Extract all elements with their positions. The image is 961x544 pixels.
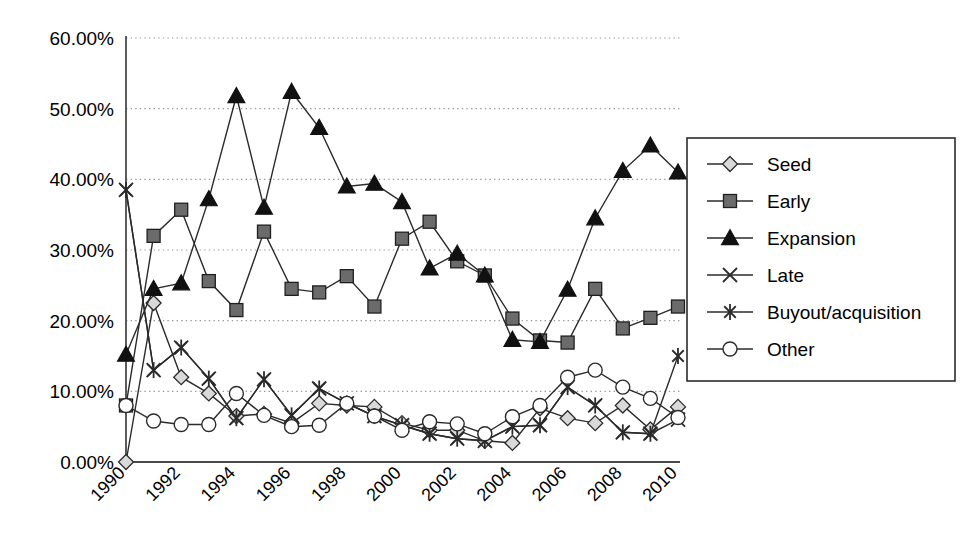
data-point-marker-asterisk xyxy=(313,381,325,397)
legend-label: Late xyxy=(767,265,804,286)
x-tick-label: 2002 xyxy=(418,463,460,505)
y-tick-label: 20.00% xyxy=(50,311,115,332)
data-point-marker-circle xyxy=(229,386,243,400)
y-tick-label: 10.00% xyxy=(50,381,115,402)
data-point-marker-asterisk xyxy=(120,182,132,198)
series-expansion xyxy=(118,83,687,361)
legend-label: Buyout/acquisition xyxy=(767,302,921,323)
y-tick-label: 60.00% xyxy=(50,28,115,49)
data-point-marker-triangle xyxy=(504,331,521,346)
series-seed xyxy=(119,296,686,470)
x-tick-label: 2010 xyxy=(638,463,680,505)
data-point-marker-square xyxy=(230,304,243,317)
data-point-marker-square xyxy=(175,203,188,216)
data-point-marker-square xyxy=(340,270,353,283)
data-point-marker-square xyxy=(202,275,215,288)
legend-label: Other xyxy=(767,339,815,360)
data-point-marker-square xyxy=(724,195,737,208)
x-tick-label: 2000 xyxy=(362,463,404,505)
data-point-marker-triangle xyxy=(642,137,659,152)
y-tick-label: 50.00% xyxy=(50,99,115,120)
data-point-marker-diamond xyxy=(174,370,189,385)
data-point-marker-triangle xyxy=(421,260,438,275)
data-point-marker-circle xyxy=(588,363,602,377)
legend-item-early[interactable]: Early xyxy=(707,191,811,212)
data-point-marker-square xyxy=(147,229,160,242)
chart-legend: SeedEarlyExpansionLateBuyout/acquisition… xyxy=(687,138,955,381)
data-point-marker-square xyxy=(423,215,436,228)
legend-label: Early xyxy=(767,191,811,212)
data-series-group xyxy=(118,83,687,469)
data-point-marker-triangle xyxy=(283,83,300,98)
data-point-marker-circle xyxy=(616,380,630,394)
data-point-marker-circle xyxy=(450,417,464,431)
data-point-marker-diamond xyxy=(560,411,575,426)
data-point-marker-square xyxy=(368,300,381,313)
data-point-marker-circle xyxy=(367,409,381,423)
data-point-marker-square xyxy=(313,286,326,299)
data-point-marker-diamond xyxy=(505,435,520,450)
data-point-marker-diamond xyxy=(119,455,134,470)
data-point-marker-triangle xyxy=(311,119,328,134)
data-point-marker-triangle xyxy=(200,191,217,206)
data-point-marker-triangle xyxy=(256,199,273,214)
data-point-marker-square xyxy=(589,282,602,295)
y-tick-label: 40.00% xyxy=(50,169,115,190)
data-point-marker-square xyxy=(561,336,574,349)
data-point-marker-circle xyxy=(257,408,271,422)
legend-item-buyout-acquisition[interactable]: Buyout/acquisition xyxy=(707,302,921,323)
legend-item-seed[interactable]: Seed xyxy=(707,154,811,175)
x-tick-label: 1992 xyxy=(142,463,184,505)
data-point-marker-circle xyxy=(505,410,519,424)
legend-label: Expansion xyxy=(767,228,856,249)
data-point-marker-triangle xyxy=(722,230,739,245)
legend-item-late[interactable]: Late xyxy=(707,265,804,286)
data-point-marker-circle xyxy=(723,342,737,356)
data-point-marker-diamond xyxy=(588,416,603,431)
data-point-marker-asterisk xyxy=(672,348,684,364)
data-point-marker-circle xyxy=(561,370,575,384)
data-point-marker-asterisk xyxy=(148,362,160,378)
data-point-marker-circle xyxy=(643,391,657,405)
x-axis-tick-labels: 1990199219941996199820002002200420062008… xyxy=(86,463,680,505)
data-point-marker-square xyxy=(506,312,519,325)
data-point-marker-circle xyxy=(174,418,188,432)
data-point-marker-circle xyxy=(202,418,216,432)
data-point-marker-circle xyxy=(340,396,354,410)
data-point-marker-circle xyxy=(478,427,492,441)
legend-item-other[interactable]: Other xyxy=(707,339,815,360)
data-point-marker-square xyxy=(644,311,657,324)
series-early xyxy=(120,203,685,412)
data-point-marker-circle xyxy=(147,414,161,428)
y-tick-label: 0.00% xyxy=(60,452,114,473)
data-point-marker-diamond xyxy=(201,386,216,401)
legend-label: Seed xyxy=(767,154,811,175)
data-point-marker-triangle xyxy=(559,281,576,296)
data-point-marker-circle xyxy=(533,398,547,412)
x-tick-label: 1996 xyxy=(252,463,294,505)
data-point-marker-triangle xyxy=(118,346,135,361)
data-point-marker-circle xyxy=(423,415,437,429)
data-point-marker-asterisk xyxy=(589,397,601,413)
data-point-marker-diamond xyxy=(723,157,738,172)
data-point-marker-triangle xyxy=(228,87,245,102)
data-point-marker-circle xyxy=(119,398,133,412)
legend-item-expansion[interactable]: Expansion xyxy=(707,228,856,249)
data-point-marker-asterisk xyxy=(175,340,187,356)
data-point-marker-square xyxy=(258,225,271,238)
x-tick-label: 1998 xyxy=(307,463,349,505)
data-point-marker-square xyxy=(672,300,685,313)
data-point-marker-circle xyxy=(312,418,326,432)
data-point-marker-circle xyxy=(285,420,299,434)
line-chart: 60.00%50.00%40.00%30.00%20.00%10.00%0.00… xyxy=(0,0,961,544)
data-point-marker-triangle xyxy=(366,175,383,190)
data-point-marker-circle xyxy=(395,423,409,437)
x-tick-label: 2008 xyxy=(583,463,625,505)
data-point-marker-square xyxy=(616,322,629,335)
data-point-marker-triangle xyxy=(587,210,604,225)
y-tick-label: 30.00% xyxy=(50,240,115,261)
data-point-marker-square xyxy=(285,282,298,295)
data-point-marker-circle xyxy=(671,410,685,424)
x-tick-label: 1994 xyxy=(197,463,239,505)
x-tick-label: 2004 xyxy=(473,463,515,505)
